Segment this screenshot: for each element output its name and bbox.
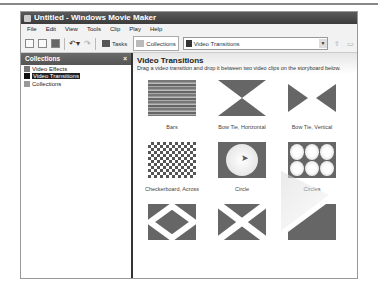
collections-button[interactable]: Collections [133, 36, 178, 51]
toolbar-separator [64, 38, 65, 50]
movie-maker-window: Untitled - Windows Movie Maker File Edit… [20, 11, 358, 279]
menu-help[interactable]: Help [150, 24, 162, 35]
collection-dropdown[interactable]: Video Transitions ▼ [183, 37, 328, 50]
diamond-thumbnail [148, 204, 196, 240]
transition-item[interactable] [207, 204, 277, 240]
transition-label: Circle [235, 178, 249, 200]
collections-pane-header: Collections × [21, 53, 131, 65]
toolbar: ↶▾ ↷ Tasks Collections Video Transitions… [21, 35, 357, 53]
menu-tools[interactable]: Tools [87, 24, 101, 35]
star-icon [24, 66, 30, 72]
sidebar-item-label: Collections [32, 81, 61, 87]
page-description: Drag a video transition and drop it betw… [137, 65, 353, 71]
transition-item[interactable]: Checkerboard, Across [137, 142, 207, 200]
sidebar-item-video-transitions[interactable]: Video Transitions [21, 73, 131, 81]
toolbar-separator [95, 38, 96, 50]
collections-pane-title: Collections [25, 53, 60, 65]
sidebar-item-label: Video Transitions [32, 73, 80, 79]
app-icon [24, 15, 31, 22]
folder-icon [24, 81, 30, 87]
transition-label: Bow Tie, Horizontal [218, 116, 265, 138]
top-divider [0, 3, 378, 5]
tasks-button[interactable]: Tasks [100, 37, 129, 50]
tasks-icon [102, 40, 110, 47]
circles-thumbnail [288, 142, 336, 178]
redo-icon[interactable]: ↷ [84, 39, 91, 48]
sidebar-item-video-effects[interactable]: Video Effects [21, 65, 131, 73]
open-icon[interactable] [38, 39, 47, 48]
tasks-label: Tasks [112, 41, 127, 47]
menu-clip[interactable]: Clip [110, 24, 120, 35]
chevron-down-icon[interactable]: ▼ [319, 39, 327, 48]
bowtie-horizontal-thumbnail [218, 80, 266, 116]
menu-file[interactable]: File [27, 24, 37, 35]
transition-label: Bow Tie, Vertical [292, 116, 333, 138]
cross-thumbnail [218, 204, 266, 240]
new-icon[interactable] [25, 39, 34, 48]
collections-label: Collections [146, 41, 175, 47]
sidebar-item-collections[interactable]: Collections [21, 80, 131, 88]
menu-view[interactable]: View [65, 24, 78, 35]
mouse-cursor-icon: ➤ [241, 153, 249, 163]
up-level-icon[interactable]: ⇧ [334, 40, 340, 48]
undo-icon[interactable]: ↶▾ [69, 39, 80, 48]
transition-icon [24, 73, 30, 79]
menu-edit[interactable]: Edit [46, 24, 56, 35]
transition-item[interactable]: Bow Tie, Horizontal [207, 80, 277, 138]
content-pane: Video Transitions Drag a video transitio… [133, 53, 357, 278]
dropdown-value: Video Transitions [194, 41, 317, 47]
checkerboard-thumbnail [148, 142, 196, 178]
view-options-icon[interactable]: ▭ [347, 40, 354, 48]
page-title: Video Transitions [137, 56, 353, 65]
transition-icon [186, 40, 192, 47]
menu-play[interactable]: Play [129, 24, 141, 35]
bowtie-vertical-thumbnail [288, 80, 336, 116]
transition-item[interactable]: Bow Tie, Vertical [277, 80, 347, 138]
transition-label: Checkerboard, Across [145, 178, 199, 200]
transition-item[interactable]: Circle [207, 142, 277, 200]
bars-thumbnail [148, 80, 196, 116]
menu-bar: File Edit View Tools Clip Play Help [21, 24, 357, 35]
transition-label: Bars [166, 116, 177, 138]
title-bar: Untitled - Windows Movie Maker [21, 12, 357, 24]
collections-pane: Collections × Video Effects Video Transi… [21, 53, 133, 278]
close-icon[interactable]: × [123, 53, 127, 65]
sidebar-item-label: Video Effects [32, 66, 67, 72]
transition-item[interactable]: Bars [137, 80, 207, 138]
collections-icon [136, 40, 144, 47]
window-title: Untitled - Windows Movie Maker [34, 12, 156, 24]
save-icon[interactable] [51, 39, 60, 48]
transition-item[interactable] [137, 204, 207, 240]
